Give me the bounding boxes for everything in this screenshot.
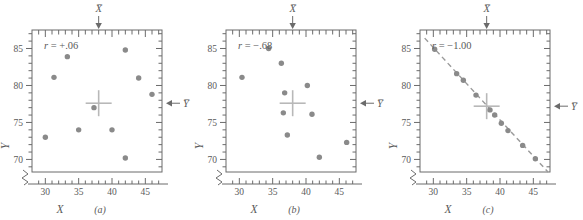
data-point xyxy=(305,83,310,88)
y-mean-label: Y̅ xyxy=(571,101,578,112)
correlation-annotation: r = −1.00 xyxy=(432,40,472,51)
top-axis-ticks xyxy=(233,30,353,37)
plot-frame xyxy=(32,30,162,172)
axis-break-symbol xyxy=(410,170,416,185)
x-mean-marker: X̅ xyxy=(94,3,103,29)
axis-break-symbol xyxy=(22,170,28,185)
y-tick-label: 80 xyxy=(402,81,412,91)
y-axis-label: Y xyxy=(388,141,399,149)
data-point xyxy=(461,78,466,83)
data-point xyxy=(149,92,154,97)
data-point xyxy=(454,71,459,76)
x-mean-label: X̅ xyxy=(482,3,491,14)
data-point xyxy=(285,132,290,137)
data-point xyxy=(51,75,56,80)
x-tick-label: 35 xyxy=(74,187,84,197)
y-tick-label: 85 xyxy=(402,44,412,54)
y-mean-marker: Y̅ xyxy=(166,98,190,109)
y-tick-label: 85 xyxy=(208,44,218,54)
data-point xyxy=(309,112,314,117)
y-tick-label: 70 xyxy=(208,155,218,165)
x-mean-marker: X̅ xyxy=(288,3,297,29)
correlation-scatterplot-figure: 7075808530354045r = +.06X̅Y̅XY(a)7075808… xyxy=(0,0,583,220)
x-mean-marker: X̅ xyxy=(482,3,491,29)
y-tick-label: 75 xyxy=(14,118,24,128)
y-mean-label: Y̅ xyxy=(377,98,384,109)
y-tick-label: 80 xyxy=(14,81,24,91)
right-axis-ticks xyxy=(350,34,356,167)
data-point xyxy=(279,61,284,66)
data-point xyxy=(505,128,510,133)
x-tick-label: 35 xyxy=(268,187,278,197)
data-point xyxy=(65,54,70,59)
plot-frame xyxy=(420,30,550,172)
data-point xyxy=(91,105,96,110)
data-point xyxy=(533,156,538,161)
x-tick-label: 40 xyxy=(107,187,117,197)
y-tick-label: 75 xyxy=(402,118,412,128)
x-axis: 30354045 xyxy=(28,178,168,197)
right-axis-ticks xyxy=(156,34,162,167)
y-axis-label: Y xyxy=(194,141,205,149)
data-point xyxy=(43,135,48,140)
x-axis: 30354045 xyxy=(222,178,362,197)
x-tick-label: 45 xyxy=(335,187,345,197)
data-point xyxy=(123,47,128,52)
x-axis-label: X xyxy=(249,203,258,215)
x-tick-label: 40 xyxy=(301,187,311,197)
x-axis-label: X xyxy=(443,203,452,215)
data-point xyxy=(492,112,497,117)
scatter-panel-b: 7075808530354045r = −.68X̅Y̅XY(b) xyxy=(194,0,388,220)
means-crosshair xyxy=(86,90,112,116)
y-axis-ticks: 70758085 xyxy=(402,34,421,167)
data-point xyxy=(520,143,525,148)
right-axis-ticks xyxy=(544,34,550,167)
y-axis-ticks: 70758085 xyxy=(208,34,227,167)
data-point xyxy=(239,75,244,80)
y-mean-marker: Y̅ xyxy=(360,98,384,109)
data-point xyxy=(76,127,81,132)
x-tick-label: 30 xyxy=(429,187,439,197)
y-tick-label: 70 xyxy=(402,155,412,165)
x-tick-label: 30 xyxy=(235,187,245,197)
data-point xyxy=(487,107,492,112)
y-tick-label: 75 xyxy=(208,118,218,128)
y-axis-ticks: 70758085 xyxy=(14,34,33,167)
y-axis-label: Y xyxy=(0,141,11,149)
data-point xyxy=(123,155,128,160)
scatter-panel-c: 7075808530354045r = −1.00X̅Y̅XY(c) xyxy=(388,0,582,220)
correlation-annotation: r = −.68 xyxy=(238,40,272,51)
x-mean-label: X̅ xyxy=(94,3,103,14)
y-tick-label: 85 xyxy=(14,44,24,54)
x-tick-label: 35 xyxy=(462,187,472,197)
data-point xyxy=(344,140,349,145)
x-tick-label: 30 xyxy=(41,187,51,197)
top-axis-ticks xyxy=(427,30,547,37)
data-point xyxy=(109,127,114,132)
panel-caption: (c) xyxy=(482,204,494,216)
x-axis: 30354045 xyxy=(416,178,556,197)
x-axis-label: X xyxy=(55,203,64,215)
x-tick-label: 40 xyxy=(495,187,505,197)
axis-break-symbol xyxy=(216,170,222,185)
y-tick-label: 70 xyxy=(14,155,24,165)
x-mean-label: X̅ xyxy=(288,3,297,14)
y-tick-label: 80 xyxy=(208,81,218,91)
y-mean-marker: Y̅ xyxy=(554,101,578,112)
panel-caption: (b) xyxy=(288,204,300,216)
y-mean-label: Y̅ xyxy=(183,98,190,109)
data-point xyxy=(473,92,478,97)
top-axis-ticks xyxy=(39,30,159,37)
data-point xyxy=(317,155,322,160)
panel-caption: (a) xyxy=(94,204,106,216)
data-point xyxy=(282,90,287,95)
x-tick-label: 45 xyxy=(529,187,539,197)
correlation-annotation: r = +.06 xyxy=(44,40,78,51)
plot-frame xyxy=(226,30,356,172)
data-point xyxy=(281,110,286,115)
scatter-panel-a: 7075808530354045r = +.06X̅Y̅XY(a) xyxy=(0,0,194,220)
data-point xyxy=(136,75,141,80)
data-point xyxy=(499,120,504,125)
x-tick-label: 45 xyxy=(141,187,151,197)
